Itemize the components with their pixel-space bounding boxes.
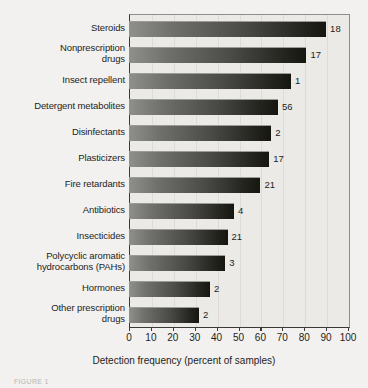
- chart-bars-container: Steroids18Nonprescription drugs17Insect …: [0, 14, 368, 326]
- tick-mark-60: [260, 327, 261, 331]
- category-label: Plasticizers: [0, 152, 125, 163]
- bar-value-label: 18: [330, 21, 341, 36]
- bar-value-label: 17: [310, 47, 321, 62]
- bar-value-label: 17: [273, 151, 284, 166]
- bar: [129, 151, 269, 167]
- tick-mark-80: [304, 327, 305, 331]
- tick-mark-20: [173, 327, 174, 331]
- x-axis-ticks: 0102030405060708090100: [129, 327, 348, 332]
- category-label: Insecticides: [0, 230, 125, 241]
- bar: [129, 229, 228, 245]
- tick-mark-90: [326, 327, 327, 331]
- tick-mark-50: [239, 327, 240, 331]
- tick-label-80: 80: [299, 332, 310, 344]
- tick-mark-10: [151, 327, 152, 331]
- category-label: Hormones: [0, 282, 125, 293]
- tick-label-10: 10: [145, 332, 156, 344]
- category-label: Antibiotics: [0, 204, 125, 215]
- bar-value-label: 2: [275, 125, 280, 140]
- category-label: Steroids: [0, 22, 125, 33]
- bar: [129, 203, 234, 219]
- bar: [129, 255, 225, 271]
- bar-value-label: 3: [229, 255, 234, 270]
- tick-mark-40: [217, 327, 218, 331]
- tick-mark-70: [282, 327, 283, 331]
- category-label: Nonprescription drugs: [0, 42, 125, 64]
- bar: [129, 177, 260, 193]
- bar-chart-figure: Steroids18Nonprescription drugs17Insect …: [0, 0, 368, 388]
- tick-label-100: 100: [340, 332, 357, 344]
- tick-label-50: 50: [233, 332, 244, 344]
- tick-mark-100: [348, 327, 349, 331]
- category-label: Polycyclic aromatic hydrocarbons (PAHs): [0, 250, 125, 272]
- tick-mark-30: [195, 327, 196, 331]
- category-label: Disinfectants: [0, 126, 125, 137]
- category-label: Fire retardants: [0, 178, 125, 189]
- bar: [129, 307, 199, 323]
- bar-value-label: 21: [264, 177, 275, 192]
- tick-label-0: 0: [126, 332, 132, 344]
- x-axis-title: Detection frequency (percent of samples): [0, 355, 368, 366]
- bar-value-label: 2: [203, 307, 208, 322]
- category-label: Detergent metabolites: [0, 100, 125, 111]
- bar: [129, 21, 326, 37]
- tick-label-90: 90: [321, 332, 332, 344]
- bar-value-label: 56: [282, 99, 293, 114]
- caption-fragment: FIGURE 1: [14, 378, 49, 385]
- category-label: Insect repellent: [0, 74, 125, 85]
- tick-label-40: 40: [211, 332, 222, 344]
- category-label: Other prescription drugs: [0, 302, 125, 324]
- bar: [129, 99, 278, 115]
- bar: [129, 125, 271, 141]
- tick-label-20: 20: [167, 332, 178, 344]
- bar: [129, 47, 306, 63]
- bar: [129, 281, 210, 297]
- tick-label-70: 70: [277, 332, 288, 344]
- bar-value-label: 21: [232, 229, 243, 244]
- bar-value-label: 2: [214, 281, 219, 296]
- bar-value-label: 1: [295, 73, 300, 88]
- tick-mark-0: [129, 327, 130, 331]
- bar-value-label: 4: [238, 203, 243, 218]
- tick-label-30: 30: [189, 332, 200, 344]
- bar: [129, 73, 291, 89]
- tick-label-60: 60: [255, 332, 266, 344]
